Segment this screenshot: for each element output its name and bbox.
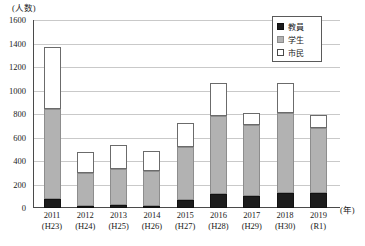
bar-segment-students[interactable]	[44, 109, 61, 199]
bar-segment-students[interactable]	[143, 171, 160, 206]
y-axis-tick-label: 400	[0, 157, 26, 165]
y-axis-tick-label: 1000	[0, 87, 26, 95]
y-axis-line	[33, 20, 34, 208]
bar-segment-students[interactable]	[110, 169, 127, 205]
gridline	[33, 114, 340, 115]
y-axis-tick-label: 200	[0, 181, 26, 189]
legend-label-students: 学生	[288, 34, 304, 45]
legend-item-citizens[interactable]: 市民	[277, 46, 321, 59]
x-axis-title: (年)	[340, 203, 355, 215]
gridline	[33, 67, 340, 68]
x-axis-category-label: 2019(R1)	[295, 210, 341, 232]
y-axis-title: (人数)	[12, 1, 36, 13]
bar-segment-citizens[interactable]	[277, 83, 294, 113]
y-axis-tick-label: 600	[0, 134, 26, 142]
bar-segment-citizens[interactable]	[310, 115, 327, 128]
bar-segment-teachers[interactable]	[44, 199, 61, 208]
bar-segment-students[interactable]	[177, 147, 194, 200]
bar-segment-students[interactable]	[210, 116, 227, 194]
x-label-era: (R1)	[295, 221, 341, 232]
bar-segment-teachers[interactable]	[143, 206, 160, 208]
bar-segment-citizens[interactable]	[77, 152, 94, 173]
y-axis-tick-label: 1200	[0, 63, 26, 71]
legend-label-teachers: 教員	[288, 21, 304, 32]
gray-square-icon	[277, 36, 284, 43]
bar-segment-citizens[interactable]	[44, 47, 61, 109]
white-square-icon	[277, 49, 284, 56]
gridline	[33, 91, 340, 92]
bar-segment-students[interactable]	[243, 125, 260, 196]
bar-segment-citizens[interactable]	[177, 123, 194, 146]
bar-segment-citizens[interactable]	[110, 145, 127, 169]
bar-segment-citizens[interactable]	[143, 151, 160, 171]
bar-segment-teachers[interactable]	[110, 205, 127, 208]
bar-segment-students[interactable]	[310, 128, 327, 193]
bar-segment-students[interactable]	[277, 113, 294, 193]
bar-segment-teachers[interactable]	[277, 193, 294, 208]
legend: 教員 学生 市民	[272, 16, 322, 62]
bar-segment-teachers[interactable]	[243, 196, 260, 208]
legend-label-citizens: 市民	[288, 47, 304, 58]
black-square-icon	[277, 23, 284, 30]
y-axis-tick-label: 0	[0, 204, 26, 212]
y-axis-tick-label: 1400	[0, 40, 26, 48]
bar-segment-citizens[interactable]	[243, 113, 260, 125]
y-axis-tick-label: 1600	[0, 16, 26, 24]
bar-segment-students[interactable]	[77, 173, 94, 206]
bar-segment-teachers[interactable]	[210, 194, 227, 208]
stacked-bar-chart: (人数) (年) 02004006008001000120014001600 7…	[0, 0, 365, 246]
bar-segment-teachers[interactable]	[310, 193, 327, 208]
bar-segment-teachers[interactable]	[77, 206, 94, 208]
y-axis-tick-label: 800	[0, 110, 26, 118]
x-label-year: 2019	[295, 210, 341, 221]
bar-segment-teachers[interactable]	[177, 200, 194, 208]
bar-segment-citizens[interactable]	[210, 83, 227, 116]
legend-item-students[interactable]: 学生	[277, 33, 321, 46]
legend-item-teachers[interactable]: 教員	[277, 20, 321, 33]
